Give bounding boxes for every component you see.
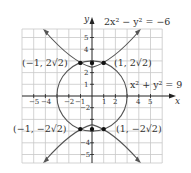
- point-label: (−1, −2√2): [13, 123, 67, 134]
- point-label: (−1, 2√2): [22, 57, 68, 68]
- svg-text:−4: −4: [41, 98, 52, 106]
- hyperbola-equation: 2x² − y² = −6: [104, 16, 170, 27]
- svg-text:4: 4: [136, 98, 141, 106]
- svg-text:−2: −2: [64, 98, 74, 106]
- circle-equation: x² + y² = 9: [130, 79, 182, 90]
- y-axis-label: y: [83, 14, 90, 24]
- x-tick-labels: −5 −4 −2 −1 1 2 4 5: [29, 98, 152, 106]
- point-neg1-pos: [78, 61, 82, 65]
- svg-text:2: 2: [84, 69, 88, 77]
- point-center-neg: [90, 127, 94, 131]
- x-axis-label: x: [175, 96, 180, 106]
- svg-text:5: 5: [84, 34, 88, 42]
- svg-text:1: 1: [84, 81, 88, 89]
- svg-text:4: 4: [84, 46, 89, 54]
- point-1-neg: [102, 127, 106, 131]
- point-center-pos: [90, 61, 94, 65]
- svg-text:2: 2: [113, 98, 117, 106]
- point-label: (1, 2√2): [114, 57, 152, 68]
- point-label: (1, −2√2): [116, 123, 162, 134]
- graph-figure: y x 2x² − y² = −6 x² + y² = 9 (−1, 2√2) …: [0, 0, 191, 173]
- y-axis-arrow-icon: [90, 17, 95, 24]
- svg-text:5: 5: [148, 98, 152, 106]
- svg-text:−5: −5: [80, 151, 90, 159]
- point-neg1-neg: [78, 127, 82, 131]
- svg-text:−4: −4: [80, 139, 91, 147]
- svg-text:1: 1: [102, 98, 106, 106]
- point-1-pos: [102, 61, 106, 65]
- svg-text:−2: −2: [80, 104, 90, 112]
- svg-text:−5: −5: [29, 98, 39, 106]
